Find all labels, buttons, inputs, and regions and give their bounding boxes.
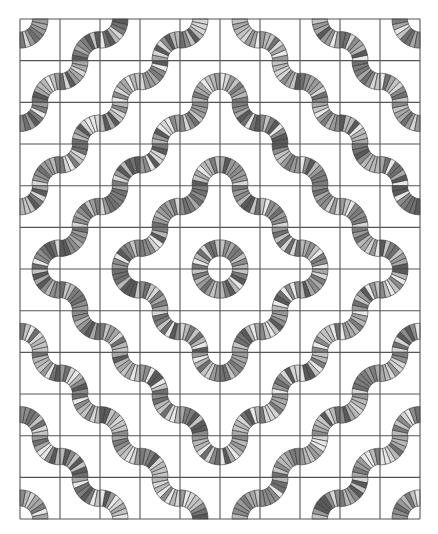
- band-arc: [100, 19, 128, 48]
- band-arc: [300, 73, 328, 102]
- band-arc: [260, 394, 288, 423]
- band-arc: [232, 490, 260, 519]
- band-arc: [20, 186, 48, 215]
- band-arc: [220, 352, 248, 381]
- band-arc: [72, 394, 100, 423]
- band-arc: [352, 61, 380, 90]
- band-arc: [20, 102, 48, 131]
- band-arc: [272, 448, 300, 477]
- band-arc: [392, 407, 420, 436]
- band-arc: [152, 115, 180, 144]
- band-arc: [152, 311, 180, 340]
- band-arc: [32, 157, 60, 186]
- band-arc: [32, 240, 60, 269]
- band-arc: [220, 436, 248, 465]
- grid-lines: [20, 19, 420, 519]
- band-arc: [392, 490, 420, 519]
- band-arc: [392, 102, 420, 131]
- band-arc: [380, 269, 408, 298]
- band-arc: [300, 157, 328, 186]
- band-arc: [140, 61, 168, 90]
- band-arc: [180, 323, 208, 352]
- band-arc: [220, 269, 248, 298]
- band-arc: [152, 394, 180, 423]
- band-arc: [140, 365, 168, 394]
- band-arc: [300, 269, 328, 298]
- band-arc: [272, 227, 300, 256]
- band-arc: [340, 32, 368, 61]
- band-arc: [272, 282, 300, 311]
- band-arc: [300, 352, 328, 381]
- band-arc: [380, 436, 408, 465]
- band-arc: [32, 73, 60, 102]
- band-arc: [60, 282, 88, 311]
- band-arc: [180, 407, 208, 436]
- band-arc: [32, 269, 60, 298]
- band-arc: [112, 157, 140, 186]
- band-arc: [272, 144, 300, 173]
- band-arc: [152, 477, 180, 506]
- band-arc: [32, 436, 60, 465]
- band-arc: [312, 19, 340, 48]
- band-arc: [232, 407, 260, 436]
- band-arc: [220, 73, 248, 102]
- band-arc: [380, 240, 408, 269]
- band-arc: [180, 102, 208, 131]
- band-arc: [180, 490, 208, 519]
- band-arc: [260, 32, 288, 61]
- band-arc: [60, 365, 88, 394]
- band-arc: [260, 198, 288, 227]
- band-arc: [100, 102, 128, 131]
- band-arc: [140, 227, 168, 256]
- band-arc: [140, 144, 168, 173]
- band-arc: [380, 157, 408, 186]
- band-arc: [300, 436, 328, 465]
- band-arc: [20, 19, 48, 48]
- band-arc: [100, 490, 128, 519]
- band-arc: [380, 73, 408, 102]
- band-arc: [352, 227, 380, 256]
- band-arc: [232, 19, 260, 48]
- band-arc: [20, 323, 48, 352]
- band-arc: [32, 352, 60, 381]
- band-arc: [352, 365, 380, 394]
- band-arc: [392, 186, 420, 215]
- band-arc: [60, 61, 88, 90]
- band-arc: [312, 490, 340, 519]
- band-arc: [140, 282, 168, 311]
- band-arc: [112, 436, 140, 465]
- band-arc: [340, 394, 368, 423]
- band-arc: [152, 198, 180, 227]
- band-arc: [312, 323, 340, 352]
- band-arc: [232, 102, 260, 131]
- band-arc: [72, 32, 100, 61]
- band-arc: [112, 269, 140, 298]
- band-arc: [72, 477, 100, 506]
- band-arc: [100, 407, 128, 436]
- band-arc: [60, 227, 88, 256]
- band-arc: [72, 198, 100, 227]
- band-arc: [340, 311, 368, 340]
- band-arc: [192, 240, 220, 269]
- band-arc: [192, 436, 220, 465]
- band-arc: [232, 323, 260, 352]
- band-arc: [112, 240, 140, 269]
- band-arc: [260, 115, 288, 144]
- band-arc: [180, 186, 208, 215]
- band-arc: [192, 73, 220, 102]
- band-arc: [392, 19, 420, 48]
- band-arc: [340, 115, 368, 144]
- band-arc: [352, 448, 380, 477]
- band-arc: [352, 144, 380, 173]
- band-arc: [312, 102, 340, 131]
- band-arc: [152, 32, 180, 61]
- band-arc: [72, 115, 100, 144]
- band-arc: [60, 144, 88, 173]
- band-arc: [352, 282, 380, 311]
- band-arc: [180, 19, 208, 48]
- band-arc: [220, 157, 248, 186]
- band-arc: [300, 240, 328, 269]
- band-arc: [312, 407, 340, 436]
- band-arc: [112, 352, 140, 381]
- band-arc: [220, 240, 248, 269]
